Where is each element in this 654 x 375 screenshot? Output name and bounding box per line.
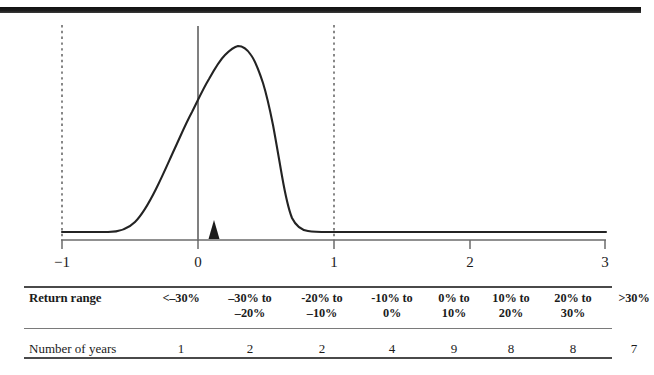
- return-range-table: Return range <–30% –30% to–20% -20% to–1…: [24, 286, 612, 364]
- axis-tick-label-3: 2: [466, 254, 474, 270]
- chart-svg: −1 0 1 2 3: [0, 13, 641, 283]
- cell-years-8: 7: [606, 333, 654, 363]
- cell-return-range-7: 20% to30%: [540, 286, 606, 333]
- cell-return-range-3: -20% to–10%: [286, 286, 358, 333]
- cell-years-6: 8: [482, 333, 540, 363]
- cell-years-4: 4: [358, 333, 426, 363]
- table-row-return-range: Return range <–30% –30% to–20% -20% to–1…: [24, 286, 654, 333]
- table-body: Return range <–30% –30% to–20% -20% to–1…: [24, 286, 654, 363]
- cell-years-1: 1: [148, 333, 214, 363]
- axis-tick-label-1: 0: [194, 254, 202, 270]
- cell-years-5: 9: [426, 333, 482, 363]
- cell-years-3: 2: [286, 333, 358, 363]
- cell-return-range-4: -10% to0%: [358, 286, 426, 333]
- cell-years-7: 8: [540, 333, 606, 363]
- row-header-number-of-years: Number of years: [24, 333, 148, 363]
- table-row-number-of-years: Number of years 1 2 2 4 9 8 8 7: [24, 333, 654, 363]
- distribution-chart: −1 0 1 2 3: [0, 13, 641, 283]
- triangle-marker-icon: [209, 220, 220, 239]
- axis-tick-label-4: 3: [601, 254, 609, 270]
- axis-tick-label-0: −1: [54, 254, 70, 270]
- cell-return-range-6: 10% to20%: [482, 286, 540, 333]
- density-curve: [62, 46, 606, 232]
- row-header-return-range: Return range: [24, 286, 148, 333]
- cell-return-range-2: –30% to–20%: [214, 286, 286, 333]
- cell-return-range-1: <–30%: [148, 286, 214, 333]
- cell-return-range-5: 0% to10%: [426, 286, 482, 333]
- cell-years-2: 2: [214, 333, 286, 363]
- axis-tick-label-2: 1: [330, 254, 338, 270]
- cell-return-range-8: >30%: [606, 286, 654, 333]
